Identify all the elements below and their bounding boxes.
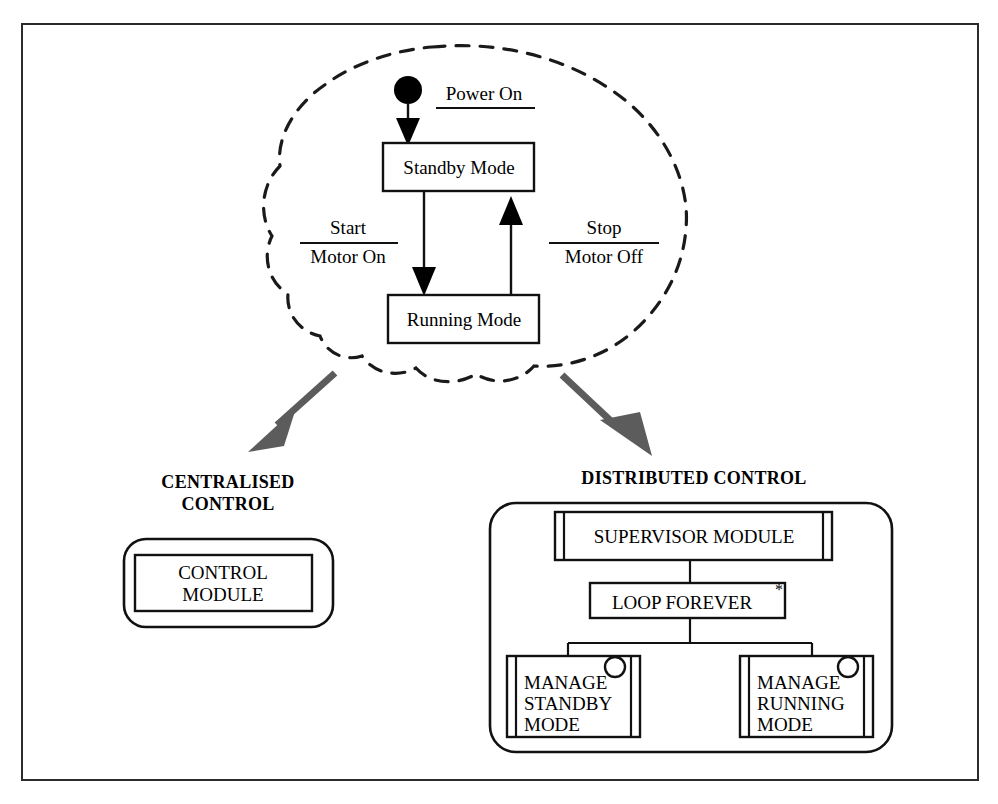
transition-start-action: Motor On	[310, 246, 386, 267]
port-circle-manage-running	[838, 657, 858, 677]
module-label-manage-running-line3: MODE	[757, 714, 813, 735]
diagram-page: Power On Standby Mode Start Motor On Sto…	[0, 0, 998, 804]
module-label-control-module-line1: CONTROL	[178, 562, 268, 583]
module-label-manage-running-line2: RUNNING	[757, 693, 845, 714]
transition-stop-arrowhead	[499, 196, 523, 225]
transition-power-on-trigger: Power On	[446, 83, 523, 104]
module-label-loop-forever: LOOP FOREVER	[612, 592, 753, 613]
module-label-supervisor: SUPERVISOR MODULE	[594, 526, 795, 547]
module-annotation-loop-asterisk: *	[775, 581, 783, 598]
transition-stop-action: Motor Off	[565, 246, 644, 267]
state-label-standby: Standby Mode	[403, 157, 514, 178]
branch-title-centralised-line2: CONTROL	[181, 494, 274, 514]
transition-start-trigger: Start	[330, 217, 367, 238]
module-label-manage-running-line1: MANAGE	[757, 672, 840, 693]
branch-title-centralised-line1: CENTRALISED	[161, 472, 294, 492]
module-label-control-module-line2: MODULE	[182, 584, 263, 605]
module-label-manage-standby-line1: MANAGE	[524, 672, 607, 693]
branch-title-distributed: DISTRIBUTED CONTROL	[581, 468, 806, 488]
transition-stop-trigger: Stop	[587, 217, 622, 238]
transition-start-arrowhead	[412, 267, 436, 296]
initial-state-node	[394, 76, 422, 104]
state-label-running: Running Mode	[407, 309, 522, 330]
module-label-manage-standby-line3: MODE	[524, 714, 580, 735]
module-label-manage-standby-line2: STANDBY	[524, 693, 612, 714]
control-architecture-diagram: Power On Standby Mode Start Motor On Sto…	[0, 0, 998, 804]
branch-arrow-distributed-shaft	[562, 375, 612, 422]
branch-arrow-distributed-head	[600, 412, 652, 456]
port-circle-manage-standby	[605, 657, 625, 677]
branch-arrow-centralised-shaft	[277, 373, 335, 425]
